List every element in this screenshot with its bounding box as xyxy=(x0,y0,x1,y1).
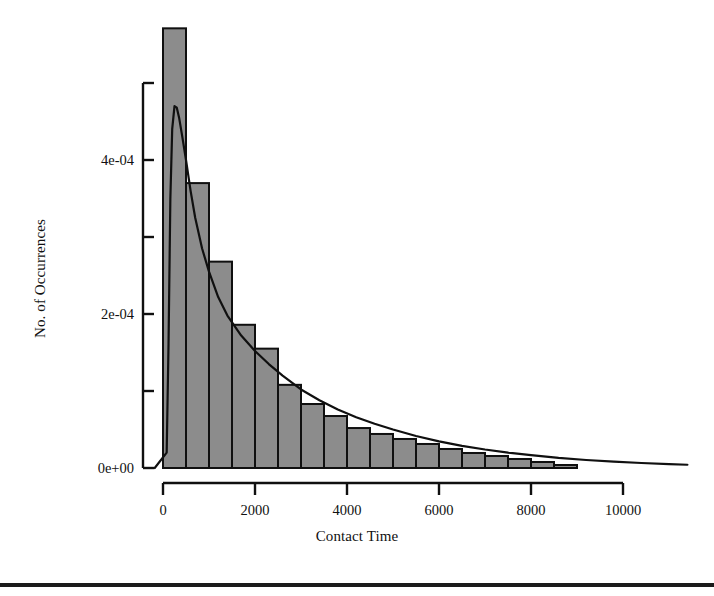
y-tick-label: 4e-04 xyxy=(101,152,135,168)
histogram-bar xyxy=(370,434,393,468)
y-tick-label: 2e-04 xyxy=(101,306,135,322)
x-tick-label: 4000 xyxy=(333,502,362,518)
x-tick-label: 0 xyxy=(159,502,166,518)
histogram-bar xyxy=(209,262,232,468)
y-axis: 0e+002e-044e-04 xyxy=(98,83,154,476)
histogram-bar xyxy=(554,465,577,468)
plot-canvas: 0e+002e-044e-04 0200040006000800010000 xyxy=(0,0,714,596)
x-tick-label: 2000 xyxy=(241,502,270,518)
histogram-figure: 0e+002e-044e-04 0200040006000800010000 C… xyxy=(0,0,714,596)
histogram-bar xyxy=(301,404,324,468)
histogram-bar xyxy=(278,385,301,468)
x-tick-label: 10000 xyxy=(605,502,641,518)
x-axis-title: Contact Time xyxy=(0,528,714,545)
histogram-bar xyxy=(462,453,485,468)
footer-rule xyxy=(0,583,714,587)
histogram-bar xyxy=(416,444,439,468)
x-tick-label: 8000 xyxy=(517,502,546,518)
histogram-bars xyxy=(163,28,577,468)
x-axis: 0200040006000800010000 xyxy=(159,483,641,518)
histogram-bar xyxy=(255,349,278,468)
histogram-bar xyxy=(439,449,462,468)
histogram-bar xyxy=(485,456,508,468)
y-tick-label: 0e+00 xyxy=(98,460,134,476)
histogram-bar xyxy=(324,416,347,468)
histogram-bar xyxy=(347,428,370,468)
histogram-bar xyxy=(508,459,531,468)
histogram-bar xyxy=(393,439,416,468)
x-tick-label: 6000 xyxy=(425,502,454,518)
histogram-bar xyxy=(531,462,554,468)
y-axis-title: No. of Occurrences xyxy=(32,179,49,379)
